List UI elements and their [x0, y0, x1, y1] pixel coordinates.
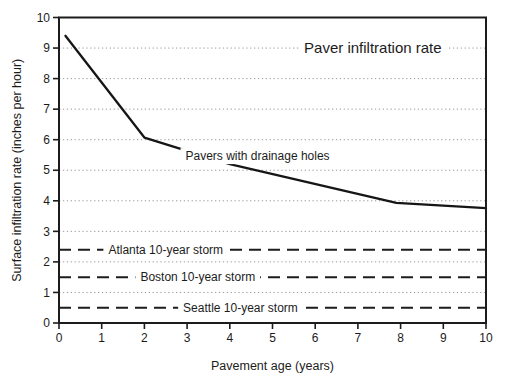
svg-text:2: 2	[141, 331, 148, 345]
y-tick-label-0: 0	[43, 316, 50, 330]
svg-text:Atlanta 10-year storm: Atlanta 10-year storm	[108, 243, 223, 257]
svg-text:Seattle 10-year storm: Seattle 10-year storm	[183, 301, 298, 315]
svg-text:3: 3	[184, 331, 191, 345]
svg-text:4: 4	[226, 331, 233, 345]
y-tick-label-9: 9	[43, 41, 50, 55]
x-tick-label-6: 6	[312, 331, 319, 345]
svg-text:6: 6	[312, 331, 319, 345]
x-tick-label-10: 10	[479, 331, 493, 345]
svg-text:7: 7	[43, 102, 50, 116]
svg-text:Pavers with drainage holes: Pavers with drainage holes	[186, 149, 330, 163]
x-tick-label-8: 8	[397, 331, 404, 345]
svg-text:0: 0	[56, 331, 63, 345]
svg-text:Surface infiltration rate (inc: Surface infiltration rate (inches per ho…	[10, 59, 24, 282]
svg-text:Boston 10-year storm: Boston 10-year storm	[140, 270, 255, 284]
svg-text:6: 6	[43, 133, 50, 147]
x-tick-label-4: 4	[226, 331, 233, 345]
paver-infiltration-figure: Pavers with drainage holesAtlanta 10-yea…	[0, 0, 508, 390]
svg-text:3: 3	[43, 225, 50, 239]
svg-text:8: 8	[43, 72, 50, 86]
chart-title: Paver infiltration rate	[299, 38, 447, 57]
x-tick-label-5: 5	[269, 331, 276, 345]
y-tick-label-1: 1	[43, 286, 50, 300]
y-tick-label-7: 7	[43, 102, 50, 116]
svg-text:2: 2	[43, 255, 50, 269]
x-tick-label-3: 3	[184, 331, 191, 345]
y-tick-label-3: 3	[43, 225, 50, 239]
x-axis-title: Pavement age (years)	[211, 359, 334, 373]
svg-text:Pavement age (years): Pavement age (years)	[211, 359, 334, 373]
y-tick-label-8: 8	[43, 72, 50, 86]
x-tick-label-7: 7	[355, 331, 362, 345]
y-axis-title: Surface infiltration rate (inches per ho…	[10, 59, 24, 282]
y-tick-label-4: 4	[43, 194, 50, 208]
series-label-pavers: Pavers with drainage holes	[181, 148, 335, 164]
svg-text:7: 7	[355, 331, 362, 345]
x-tick-label-0: 0	[56, 331, 63, 345]
pavers-line	[65, 36, 486, 208]
svg-text:9: 9	[43, 41, 50, 55]
svg-text:5: 5	[43, 163, 50, 177]
y-tick-label-2: 2	[43, 255, 50, 269]
svg-text:5: 5	[269, 331, 276, 345]
series-label-atlanta: Atlanta 10-year storm	[103, 242, 228, 258]
series-label-seattle: Seattle 10-year storm	[178, 300, 303, 316]
x-tick-label-9: 9	[440, 331, 447, 345]
svg-text:10: 10	[37, 11, 51, 25]
infiltration-rate-chart: Pavers with drainage holesAtlanta 10-yea…	[0, 0, 508, 390]
series-lines	[59, 36, 486, 308]
y-tick-label-5: 5	[43, 163, 50, 177]
svg-text:0: 0	[43, 316, 50, 330]
svg-text:9: 9	[440, 331, 447, 345]
svg-text:1: 1	[43, 286, 50, 300]
svg-text:4: 4	[43, 194, 50, 208]
svg-text:8: 8	[397, 331, 404, 345]
svg-text:1: 1	[98, 331, 105, 345]
y-tick-label-10: 10	[37, 11, 51, 25]
svg-text:Paver infiltration rate: Paver infiltration rate	[304, 39, 442, 56]
svg-text:10: 10	[479, 331, 493, 345]
y-tick-label-6: 6	[43, 133, 50, 147]
series-label-boston: Boston 10-year storm	[135, 269, 260, 285]
x-tick-label-1: 1	[98, 331, 105, 345]
x-tick-label-2: 2	[141, 331, 148, 345]
